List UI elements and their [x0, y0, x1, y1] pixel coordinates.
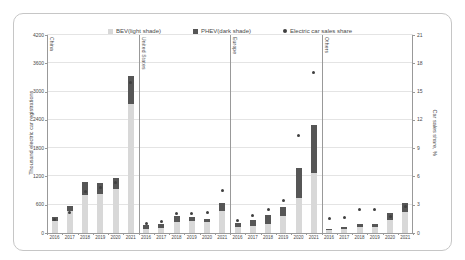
bar-phev	[372, 224, 378, 227]
bar-phev	[326, 229, 332, 230]
right-tick-mark	[413, 205, 415, 206]
bar-bev	[357, 227, 363, 233]
bar-bev	[341, 229, 347, 233]
bar-bev	[52, 221, 58, 233]
share-dot	[389, 215, 392, 218]
right-tick-mark	[413, 148, 415, 149]
bar-phev	[235, 223, 241, 228]
right-tick-label: 0	[417, 231, 437, 236]
region-label: China	[49, 37, 54, 51]
share-dot-icon	[283, 29, 287, 33]
phev-swatch-icon	[193, 29, 198, 34]
year-label: 2018	[352, 236, 368, 241]
year-label: 2017	[62, 236, 78, 241]
x-tick-mark	[230, 233, 231, 235]
region-label: Europe	[232, 37, 237, 54]
x-tick-mark	[93, 233, 94, 235]
bar-bev	[189, 221, 195, 233]
x-tick-mark	[306, 233, 307, 235]
x-tick-mark	[215, 233, 216, 235]
bar-phev	[67, 206, 73, 211]
x-tick-mark	[108, 233, 109, 235]
panel-divider	[139, 35, 140, 233]
region-label: Others	[324, 37, 329, 53]
bar-phev	[143, 225, 149, 228]
year-label: 2019	[275, 236, 291, 241]
right-tick-label: 9	[417, 146, 437, 151]
bar-bev	[219, 211, 225, 233]
year-label: 2021	[306, 236, 322, 241]
bev-swatch-icon	[108, 29, 113, 34]
panel-divider	[230, 35, 231, 233]
left-tick-label: 0	[16, 231, 44, 236]
right-tick-mark	[413, 176, 415, 177]
bar-bev	[143, 229, 149, 233]
left-tick-label: 3000	[16, 89, 44, 94]
x-tick-mark	[261, 233, 262, 235]
x-tick-mark	[276, 233, 277, 235]
bar-phev	[357, 224, 363, 227]
share-dot	[206, 211, 209, 214]
x-tick-mark	[62, 233, 63, 235]
bar-phev	[341, 227, 347, 229]
share-dot	[84, 190, 87, 193]
x-tick-mark	[200, 233, 201, 235]
x-tick-mark	[383, 233, 384, 235]
share-dot	[251, 214, 254, 217]
left-tick-label: 1800	[16, 146, 44, 151]
bar-bev	[265, 224, 271, 233]
share-dot	[114, 181, 117, 184]
share-dot	[343, 216, 346, 219]
bar-phev	[219, 203, 225, 211]
right-tick-mark	[413, 35, 415, 36]
left-tick-label: 3600	[16, 61, 44, 66]
share-dot	[145, 222, 148, 225]
share-dot	[175, 212, 178, 215]
chart-card: BEV(light shade) PHEV(dark shade) Electr…	[13, 13, 452, 251]
right-tick-label: 21	[417, 33, 437, 38]
bar-phev	[128, 76, 134, 104]
share-dot	[282, 199, 285, 202]
bar-bev	[82, 195, 88, 233]
bar-bev	[128, 104, 134, 233]
x-tick-mark	[78, 233, 79, 235]
share-dot	[358, 208, 361, 211]
share-dot	[297, 134, 300, 137]
x-tick-mark	[352, 233, 353, 235]
right-tick-label: 6	[417, 174, 437, 179]
bar-phev	[296, 168, 302, 197]
bar-phev	[174, 216, 180, 222]
share-dot	[267, 208, 270, 211]
bar-phev	[204, 219, 210, 222]
year-label: 2016	[47, 236, 63, 241]
left-tick-label: 600	[16, 202, 44, 207]
x-tick-mark	[123, 233, 124, 235]
bar-bev	[97, 194, 103, 233]
bar-phev	[280, 207, 286, 216]
x-tick-mark	[47, 233, 48, 235]
x-tick-mark	[367, 233, 368, 235]
year-label: 2016	[138, 236, 154, 241]
bar-bev	[235, 227, 241, 233]
bar-bev	[67, 211, 73, 233]
year-label: 2017	[153, 236, 169, 241]
bar-phev	[311, 125, 317, 173]
x-tick-mark	[184, 233, 185, 235]
bar-phev	[250, 220, 256, 226]
y-axis-line	[47, 35, 48, 233]
year-label: 2018	[77, 236, 93, 241]
x-tick-mark	[139, 233, 140, 235]
right-axis-line	[412, 35, 413, 233]
x-tick-mark	[337, 233, 338, 235]
left-tick-label: 2400	[16, 117, 44, 122]
bar-phev	[158, 224, 164, 228]
right-tick-label: 3	[417, 202, 437, 207]
share-dot	[221, 189, 224, 192]
x-tick-mark	[291, 233, 292, 235]
share-dot	[312, 71, 315, 74]
left-tick-label: 1200	[16, 174, 44, 179]
bar-phev	[113, 178, 119, 189]
year-label: 2019	[184, 236, 200, 241]
year-label: 2020	[199, 236, 215, 241]
year-label: 2016	[230, 236, 246, 241]
